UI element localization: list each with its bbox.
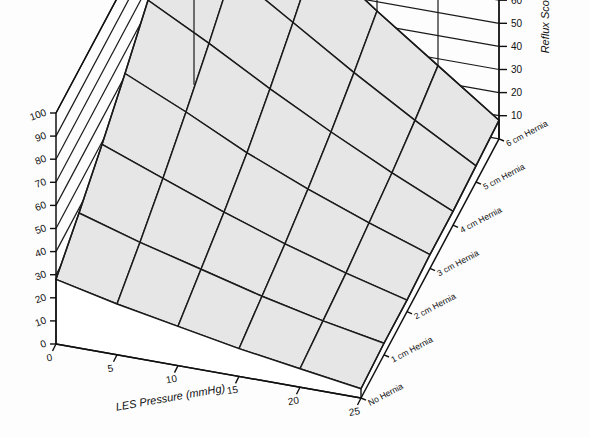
score-right-tick-label: 60 — [511, 0, 523, 6]
pressure-tick-label: 5 — [107, 362, 115, 374]
surface-plot-figure: 0510152025LES Pressure (mmHg)05101520251… — [0, 0, 590, 437]
pressure-tick-mark — [236, 376, 240, 383]
hernia-tick-label: 6 cm Hernia — [504, 118, 549, 148]
pressure-tick-mark — [175, 366, 179, 373]
score-left-tick-label: 30 — [33, 268, 48, 282]
hernia-tick-label: 1 cm Hernia — [389, 334, 434, 364]
pressure-tick-mark — [53, 344, 57, 351]
score-left-tick-label: 80 — [33, 153, 48, 167]
score-right-tick-label: 30 — [511, 64, 523, 75]
surface-mesh — [56, 0, 499, 398]
score-left-tick-label: 10 — [33, 314, 48, 328]
score-left-tick-label: 70 — [33, 176, 48, 190]
hernia-tick-label: 2 cm Hernia — [412, 291, 457, 321]
score-left-tick-label: 60 — [33, 199, 48, 213]
pressure-tick-label: 0 — [46, 352, 54, 364]
score-right-tick-label: 50 — [511, 18, 523, 29]
hernia-tick-label: 4 cm Hernia — [458, 204, 503, 234]
surface-plot-canvas: 0510152025LES Pressure (mmHg)05101520251… — [0, 0, 590, 437]
pressure-tick-mark — [297, 387, 301, 394]
pressure-tick-label: 25 — [348, 405, 361, 418]
pressure-tick-label: 10 — [165, 373, 178, 386]
score-right-tick-label: 10 — [511, 110, 523, 121]
hernia-tick-label: 3 cm Hernia — [435, 248, 480, 278]
pressure-axis-title: LES Pressure (mmHg) — [115, 382, 226, 413]
score-left-tick-label: 0 — [39, 337, 48, 349]
hernia-tick-label: No Hernia — [366, 381, 405, 408]
pressure-tick-label: 20 — [287, 394, 300, 407]
score-right-tick-label: 40 — [511, 41, 523, 52]
score-left-tick-label: 50 — [33, 222, 48, 236]
score-left-tick-label: 20 — [33, 291, 48, 305]
score-left-tick-label: 90 — [33, 129, 48, 143]
score-left-tick-label: 100 — [28, 106, 48, 122]
pressure-tick-mark — [358, 398, 362, 405]
score-left-tick-label: 40 — [33, 245, 48, 259]
pressure-tick-label: 15 — [226, 383, 239, 396]
hernia-tick-label: 5 cm Hernia — [481, 161, 526, 191]
pressure-tick-mark — [114, 355, 118, 362]
score-right-tick-label: 20 — [511, 87, 523, 98]
score-axis-title: Reflux Score (%) — [539, 0, 551, 53]
